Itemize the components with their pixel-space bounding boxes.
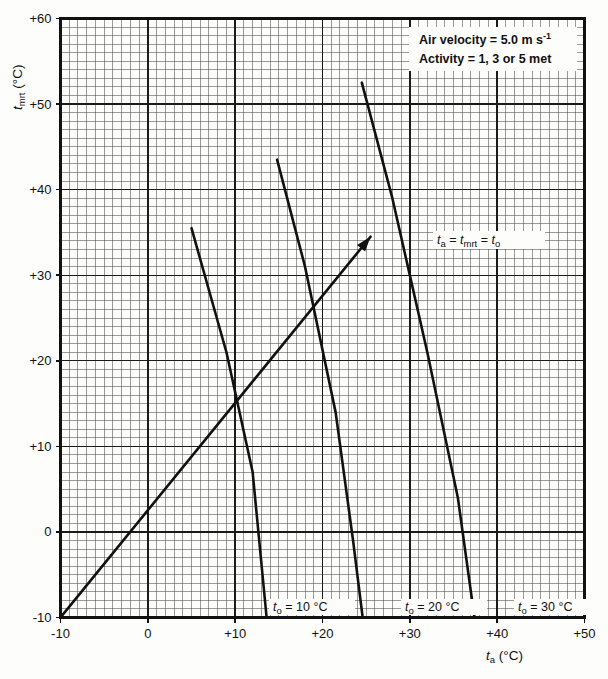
x-tick-label: +50 bbox=[573, 626, 595, 641]
series-label-2: to = 20 °C bbox=[401, 599, 487, 616]
chart-figure: -100+10+20+30+40+50 -100+10+20+30+40+50+… bbox=[0, 0, 608, 679]
variable-label: to = 10 °C bbox=[273, 600, 327, 616]
legend-box: Air velocity = 5.0 m s-1Activity = 1, 3 … bbox=[409, 27, 577, 71]
series-label-1: to = 10 °C bbox=[269, 599, 355, 616]
chart-background bbox=[0, 0, 608, 679]
x-tick-label: +30 bbox=[399, 626, 421, 641]
y-tick-label: +30 bbox=[29, 268, 51, 283]
series-labels: to = 10 °Cto = 20 °Cto = 30 °C bbox=[269, 599, 600, 616]
y-tick-label: +50 bbox=[29, 97, 51, 112]
x-tick-label: +10 bbox=[224, 626, 246, 641]
y-tick-label: -10 bbox=[33, 610, 52, 625]
legend-activity: Activity = 1, 3 or 5 met bbox=[419, 52, 552, 66]
y-tick-label: 0 bbox=[44, 524, 51, 539]
y-tick-label: +60 bbox=[29, 11, 51, 26]
y-tick-label: +20 bbox=[29, 353, 51, 368]
x-tick-label: +40 bbox=[486, 626, 508, 641]
series-label-3: to = 30 °C bbox=[514, 599, 600, 616]
x-tick-label: 0 bbox=[144, 626, 151, 641]
y-tick-label: +10 bbox=[29, 439, 51, 454]
reference-line-label: ta = tmrt = to bbox=[433, 231, 545, 249]
x-tick-label: -10 bbox=[51, 626, 70, 641]
variable-label: to = 30 °C bbox=[518, 600, 572, 616]
y-tick-label: +40 bbox=[29, 182, 51, 197]
x-tick-label: +20 bbox=[311, 626, 333, 641]
legend-air-velocity: Air velocity = 5.0 m s-1 bbox=[419, 31, 551, 47]
temperature-chart: -100+10+20+30+40+50 -100+10+20+30+40+50+… bbox=[0, 0, 608, 679]
variable-label: to = 20 °C bbox=[405, 600, 459, 616]
